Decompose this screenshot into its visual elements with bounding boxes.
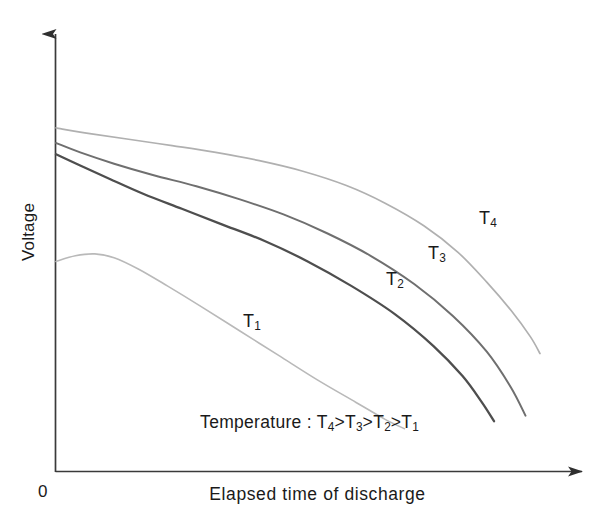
- curve-t2: [56, 154, 494, 421]
- curve-t1: [56, 254, 404, 429]
- curve-label-t4: T4: [479, 208, 497, 230]
- curve-label-t3: T3: [428, 243, 446, 265]
- curve-label-t3-subscript: 3: [439, 251, 446, 265]
- x-axis-title: Elapsed time of discharge: [0, 484, 605, 505]
- curve-label-t4-subscript: 4: [490, 216, 497, 230]
- y-axis-title: Voltage: [19, 157, 39, 307]
- annotation-t3: T: [345, 412, 356, 432]
- annotation-gt-1: >: [334, 412, 345, 432]
- annotation-gt-2: >: [363, 412, 374, 432]
- y-axis-title-text: Voltage: [19, 203, 38, 261]
- discharge-voltage-chart: Voltage 0 Elapsed time of discharge Temp…: [0, 0, 605, 528]
- annotation-t3-subscript: 3: [356, 420, 363, 434]
- chart-plot-area: [0, 0, 605, 528]
- curve-label-t4-symbol: T: [479, 208, 490, 228]
- annotation-gt-3: >: [391, 412, 402, 432]
- curve-label-t2: T2: [386, 269, 404, 291]
- curve-label-t3-symbol: T: [428, 243, 439, 263]
- annotation-prefix: Temperature :: [200, 412, 317, 432]
- curve-t3: [56, 143, 525, 416]
- curve-t4: [56, 128, 540, 354]
- temperature-order-annotation: Temperature : T4>T3>T2>T1: [0, 412, 605, 434]
- curve-label-t1-subscript: 1: [254, 319, 261, 333]
- curve-label-t2-subscript: 2: [397, 277, 404, 291]
- annotation-t1: T: [401, 412, 412, 432]
- curve-group: [56, 128, 540, 429]
- annotation-t2: T: [373, 412, 384, 432]
- annotation-t4: T: [317, 412, 328, 432]
- curve-label-t1-symbol: T: [243, 311, 254, 331]
- annotation-t2-subscript: 2: [384, 420, 391, 434]
- curve-label-t2-symbol: T: [386, 269, 397, 289]
- curve-label-t1: T1: [243, 311, 261, 333]
- annotation-t1-subscript: 1: [412, 420, 419, 434]
